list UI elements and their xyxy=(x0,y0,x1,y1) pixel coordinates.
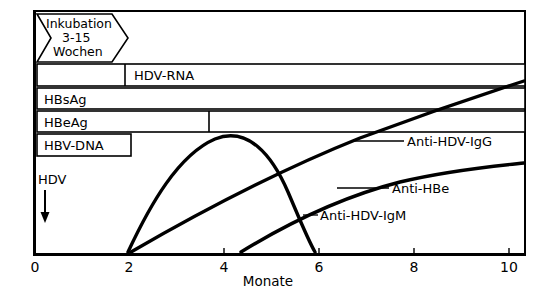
incubation-line3: Wochen xyxy=(53,44,103,59)
label-anti-hdv-igg: Anti-HDV-IgG xyxy=(352,134,492,149)
hdv-serology-figure: Inkubation 3-15 Wochen HDV-RNA HBsAg HBe… xyxy=(0,0,550,290)
x-tick-label-2: 2 xyxy=(125,259,134,275)
bar-hbeag: HBeAg xyxy=(37,111,525,132)
incubation-banner: Inkubation 3-15 Wochen xyxy=(37,14,128,62)
x-tick-label-8: 8 xyxy=(410,259,419,275)
bar-hdv-rna-label: HDV-RNA xyxy=(134,68,194,83)
label-anti-hbe-text: Anti-HBe xyxy=(392,181,449,196)
bar-hdv-rna: HDV-RNA xyxy=(37,64,525,86)
down-arrow-icon xyxy=(41,190,50,223)
x-tick-label-4: 4 xyxy=(220,259,229,275)
curve-anti-hdv-igm xyxy=(128,136,315,252)
label-anti-hdv-igm-text: Anti-HDV-IgM xyxy=(320,208,406,223)
bar-hdv-rna-track xyxy=(37,64,525,86)
incubation-line2: 3-15 xyxy=(62,30,90,45)
x-axis-title: Monate xyxy=(243,273,293,289)
bar-hbv-dna-label: HBV-DNA xyxy=(44,138,104,153)
hdv-marker-label: HDV xyxy=(38,172,67,187)
figure-canvas: Inkubation 3-15 Wochen HDV-RNA HBsAg HBe… xyxy=(0,0,550,290)
incubation-line1: Inkubation xyxy=(46,16,112,31)
x-tick-label-10: 10 xyxy=(500,259,518,275)
bar-hbeag-track xyxy=(37,111,525,132)
bar-hbeag-label: HBeAg xyxy=(44,115,88,130)
label-anti-hdv-igg-text: Anti-HDV-IgG xyxy=(407,134,492,149)
bar-hbv-dna: HBV-DNA xyxy=(37,134,131,156)
x-tick-label-6: 6 xyxy=(315,259,324,275)
label-anti-hbe: Anti-HBe xyxy=(337,181,449,196)
hdv-event-marker: HDV xyxy=(38,172,67,223)
bar-hbsag-label: HBsAg xyxy=(44,92,87,107)
x-tick-label-0: 0 xyxy=(31,259,40,275)
